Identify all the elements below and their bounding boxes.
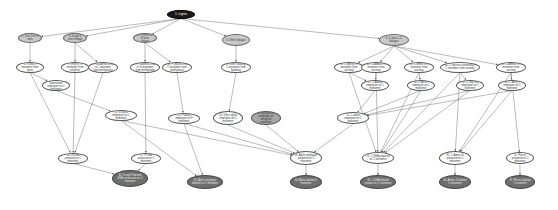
node-label: 11. C-specific C monomer from existing	[338, 63, 360, 72]
node-process[interactable]: 23. Other alpha employee on C monomer	[213, 111, 243, 125]
node-process[interactable]: 13. C amine in C monomer from existing	[404, 62, 434, 73]
node-process[interactable]: 14. C-Glycine-containing in C monomer fr…	[440, 62, 480, 73]
node-process[interactable]: 19. C-Glycine employee on C monomer	[456, 80, 484, 91]
edge-n1-n4	[152, 19, 181, 35]
node-label: 10. F-linked DHA C monomer from methylat…	[166, 63, 188, 72]
node-process[interactable]: 18. C-Amine employee on C monomer	[407, 80, 435, 91]
node-process[interactable]: 7. Ethyl G C monomer from ethylene	[61, 62, 89, 73]
node-label: 1. Lignin	[175, 13, 187, 16]
node-process[interactable]: 25. C-alpha employee on C monomer	[337, 112, 369, 124]
node-label: 5. Other carbonyl C monomer from lipidiz…	[225, 63, 247, 72]
node-process[interactable]: 5. Other carbonyl C monomer from lipidiz…	[221, 62, 251, 73]
node-process[interactable]: 22. F-alpha employee on F monomer	[168, 113, 200, 124]
node-root[interactable]: 1. Lignin	[167, 10, 195, 19]
node-label: 34. Alpha-labeled C monomer	[294, 179, 318, 185]
node-group[interactable]: 3. G and S units linkage	[63, 33, 87, 43]
edge-layer	[0, 0, 558, 210]
node-group[interactable]: 4. F and G or H units linkage	[133, 33, 157, 43]
node-label: 28. Alpha employee prepared on C monomer	[294, 154, 318, 163]
node-label: 13. C amine in C monomer from existing	[408, 63, 430, 72]
node-process[interactable]: 8. G-labeled DHA in C monomer from methy…	[88, 62, 118, 73]
node-label: 18. C-Amine employee on C monomer	[411, 81, 431, 90]
edge-n19-n27	[358, 91, 375, 113]
node-result[interactable]: 34. Alpha-labeled C monomer	[290, 175, 322, 189]
edge-n6-n17	[394, 46, 498, 65]
edge-n28-n34	[73, 164, 114, 174]
node-process[interactable]: 16. G-Substitution employee on C monomer	[42, 80, 70, 91]
node-process[interactable]: 12. C-added in C monomer from existing	[361, 62, 391, 73]
node-label: 35. C DHA labeled product on C monomer	[364, 179, 392, 185]
edge-n23-n30	[121, 121, 291, 156]
edge-n22-n32	[461, 91, 512, 152]
edge-n18-n23	[56, 91, 110, 111]
node-result[interactable]: 37. Pieces labeled C monomer	[505, 175, 535, 189]
edge-n29-n34	[138, 164, 146, 171]
node-label: 27. F DHA prepared on C monomer	[135, 154, 157, 163]
edge-n7-n18	[30, 73, 47, 81]
node-process[interactable]: 29. C DHA prepared on C monomer	[362, 152, 394, 164]
node-label: 16. G-Substitution employee on C monomer	[46, 80, 66, 91]
node-process[interactable]: 9. F-labeled DHA in G monomer from methy…	[130, 62, 160, 73]
node-label: 22. F-alpha employee on F monomer	[172, 114, 196, 123]
edge-n22-n27	[368, 91, 512, 116]
node-group[interactable]: 5. Other linkages	[222, 34, 250, 46]
node-process[interactable]: 28. Alpha employee prepared on C monomer	[290, 151, 322, 165]
edge-n6-n14	[380, 46, 394, 62]
node-result[interactable]: 36. Amine-G labeled C monomer	[439, 175, 471, 189]
edge-n9-n28	[75, 73, 103, 153]
node-process[interactable]: 21. G-alpha employee on C monomer	[105, 110, 137, 121]
node-label: 8. G-labeled DHA in C monomer from methy…	[92, 63, 114, 72]
node-label: 14. C-Glycine-containing in C monomer fr…	[444, 64, 476, 70]
edge-n6-n16	[394, 46, 447, 63]
node-label: 32. G and F-labeled DHA condensate on C …	[116, 174, 144, 183]
node-result[interactable]: 33. Alpha employee labeled on C monomer	[187, 175, 223, 189]
edge-n15-n20	[419, 73, 420, 80]
node-label: 24. Background employee on designed mono…	[255, 112, 277, 124]
node-result[interactable]: 32. G and F-labeled DHA condensate on C …	[112, 170, 148, 187]
edge-n24-n30	[184, 124, 293, 155]
edge-n1-n5	[181, 19, 226, 36]
node-process[interactable]: 6. G and S monomer from lignin	[16, 62, 44, 73]
node-label: 19. C-Glycine employee on C monomer	[460, 81, 480, 90]
node-highlight[interactable]: 24. Background employee on designed mono…	[251, 111, 281, 125]
flow-diagram: 1. Lignin2. G or S or H units3. G and S …	[0, 0, 558, 210]
node-label: 31. Pieces prepared on C monomer	[510, 154, 530, 163]
edge-n1-n6	[181, 19, 379, 39]
node-process[interactable]: 26. G DHA prepared on C monomer	[58, 153, 88, 164]
node-label: 26. G DHA prepared on C monomer	[62, 154, 84, 163]
edge-n12-n25	[229, 73, 236, 112]
node-label: 9. F-labeled DHA in G monomer from methy…	[134, 63, 156, 72]
edge-n27-n30	[314, 124, 353, 152]
node-label: 21. G-alpha employee on C monomer	[109, 111, 133, 120]
node-result[interactable]: 35. C DHA labeled product on C monomer	[360, 175, 396, 189]
edge-n11-n24	[177, 73, 183, 113]
node-process[interactable]: 10. F-linked DHA C monomer from methylat…	[162, 62, 192, 73]
node-label: 17. C-Added employee on C monomer	[365, 81, 385, 90]
edge-n21-n27	[367, 91, 470, 115]
node-label: 23. Other alpha employee on C monomer	[217, 114, 239, 123]
node-label: 6. G and S monomer from lignin	[20, 63, 40, 72]
node-label: 4. F and G or H units linkage	[137, 34, 153, 43]
node-process[interactable]: 20. C-Amine employee on C monomer	[498, 80, 526, 91]
node-group[interactable]: 6. C units C-C linkages	[379, 34, 409, 46]
node-label: 5. Other linkages	[226, 39, 246, 42]
node-label: 25. C-alpha employee on C monomer	[341, 114, 365, 123]
node-label: 2. G or S or H units	[22, 35, 38, 41]
edge-n8-n28	[73, 73, 75, 153]
edge-n20-n31	[382, 91, 421, 153]
node-process[interactable]: 11. C-specific C monomer from existing	[334, 62, 364, 73]
node-process[interactable]: 27. F DHA prepared on C monomer	[131, 153, 161, 164]
node-label: 20. C-Amine employee on C monomer	[502, 81, 522, 90]
node-group[interactable]: 2. G or S or H units	[18, 33, 42, 43]
node-process[interactable]: 30. C-Amine-G prepared on C monomer	[439, 151, 471, 165]
node-label: 12. C-added in C monomer from existing	[365, 63, 387, 72]
node-process[interactable]: 15. C-Amine in C monomer from existing	[496, 62, 526, 73]
edge-n23-n35	[121, 121, 197, 176]
edge-n24-n35	[184, 124, 203, 176]
edge-n6-n13	[358, 46, 394, 63]
node-process[interactable]: 17. C-Added employee on C monomer	[361, 80, 389, 91]
edge-n3-n9	[75, 43, 97, 62]
node-process[interactable]: 31. Pieces prepared on C monomer	[506, 152, 534, 164]
node-label: 37. Pieces labeled C monomer	[509, 179, 531, 185]
node-label: 7. Ethyl G C monomer from ethylene	[65, 63, 85, 72]
